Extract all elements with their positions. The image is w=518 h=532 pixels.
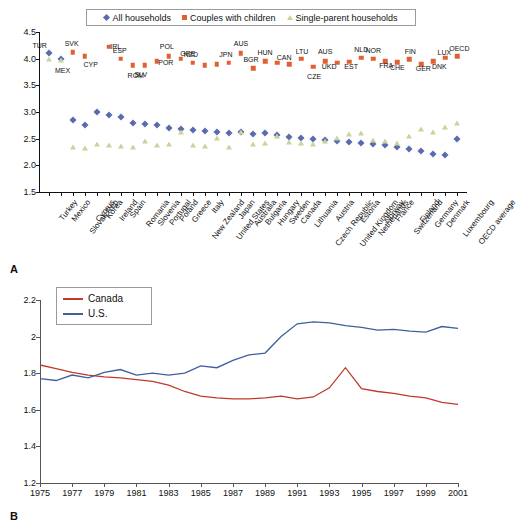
data-point (130, 145, 136, 150)
panel-a-x-tick (133, 192, 134, 196)
data-point (310, 142, 316, 147)
panel-b-y-tick-label: 1.8 (23, 368, 36, 378)
panel-b-x-label: 1997 (384, 488, 404, 498)
data-point (58, 57, 64, 62)
data-point (382, 138, 388, 143)
panel-a-x-tick (397, 192, 398, 196)
panel-a-x-tick (61, 192, 62, 196)
data-point (358, 139, 365, 146)
data-point (430, 150, 437, 157)
panel-b-x-tick (136, 483, 137, 487)
panel-b-x-tick (426, 483, 427, 487)
data-point (178, 130, 184, 135)
panel-b-x-tick (362, 483, 363, 487)
panel-a-x-tick (277, 192, 278, 196)
data-point (143, 63, 148, 68)
panel-a-y-tick-label: 4.5 (23, 27, 36, 37)
data-point-code-label: ESP (113, 46, 127, 53)
data-point (203, 63, 208, 68)
panel-a-x-tick (289, 192, 290, 196)
data-point (226, 145, 232, 150)
data-point (81, 121, 88, 128)
diamond-marker-icon (103, 14, 110, 21)
legend-label: Couples with children (190, 13, 276, 23)
data-point (70, 50, 75, 55)
panel-a-y-tick (36, 192, 39, 193)
data-point (251, 66, 256, 71)
data-point (105, 111, 112, 118)
panel-b-x-label: 1979 (94, 488, 114, 498)
data-point (430, 130, 436, 135)
data-point (407, 57, 412, 62)
data-point-code-label: SVK (65, 40, 79, 47)
panel-a-x-tick (85, 192, 86, 196)
data-point (394, 140, 400, 145)
panel-a-y-tick (36, 112, 39, 113)
legend-label: All households (112, 13, 171, 23)
data-point (179, 56, 184, 61)
data-point (93, 108, 100, 115)
panel-a-x-tick (193, 192, 194, 196)
panel-a-x-tick (433, 192, 434, 196)
panel-a-x-tick (181, 192, 182, 196)
data-point-code-label: TUR (32, 41, 46, 48)
data-point (118, 144, 124, 149)
data-point (287, 62, 292, 67)
data-point (215, 62, 220, 67)
panel-b-x-label: 1991 (287, 488, 307, 498)
panel-a-x-tick (157, 192, 158, 196)
panel-b-line-chart: Canada U.S. 1.21.41.61.822.2197519771979… (0, 282, 475, 532)
data-point (225, 130, 232, 137)
data-point (202, 144, 208, 149)
data-point (442, 124, 448, 129)
legend-item-all-households: All households (104, 13, 171, 23)
panel-b-y-tick-label: 1.6 (23, 405, 36, 415)
data-point (263, 59, 268, 64)
data-point (69, 116, 76, 123)
panel-a-x-tick (73, 192, 74, 196)
data-point-code-label: POL (160, 43, 174, 50)
data-point (370, 137, 376, 142)
panel-a-x-tick (313, 192, 314, 196)
data-point-code-label: CYP (83, 61, 97, 68)
data-point (214, 135, 220, 140)
panel-b-x-label: 1983 (159, 488, 179, 498)
data-point (274, 134, 280, 139)
data-point (191, 61, 196, 66)
panel-a-letter: A (10, 263, 18, 275)
data-point (442, 151, 449, 158)
line-series (40, 365, 458, 404)
data-point (249, 131, 256, 138)
data-point-code-label: DNK (432, 63, 447, 70)
panel-a-x-tick (229, 192, 230, 196)
panel-a-x-tick (205, 192, 206, 196)
panel-b-x-label: 1989 (255, 488, 275, 498)
panel-b-x-label: 1975 (30, 488, 50, 498)
panel-b-plot-area: 1.21.41.61.822.2197519771979198119831985… (40, 300, 458, 483)
data-point-code-label: LTU (296, 47, 309, 54)
data-point (299, 56, 304, 61)
data-point (406, 134, 412, 139)
panel-a-y-tick (36, 139, 39, 140)
panel-b-x-tick (201, 483, 202, 487)
panel-a-y-tick (36, 59, 39, 60)
panel-a-x-tick (241, 192, 242, 196)
data-point (190, 143, 196, 148)
panel-a-scatter-chart: All households Couples with children Sin… (0, 0, 475, 282)
data-point-code-label: OECD (449, 45, 469, 52)
panel-a-x-tick (349, 192, 350, 196)
line-series (40, 322, 458, 381)
data-point (119, 56, 124, 61)
data-point-code-label: JPN (219, 50, 232, 57)
data-point (94, 142, 100, 147)
data-point (117, 114, 124, 121)
data-point-code-label: CHE (390, 64, 405, 71)
data-point (261, 130, 268, 137)
panel-a-x-tick (457, 192, 458, 196)
panel-a-x-tick (325, 192, 326, 196)
data-point-code-label: MEX (55, 66, 70, 73)
data-point-code-label: CAN (277, 54, 292, 61)
panel-a-x-tick (373, 192, 374, 196)
data-point (443, 55, 448, 60)
panel-b-x-tick (394, 483, 395, 487)
